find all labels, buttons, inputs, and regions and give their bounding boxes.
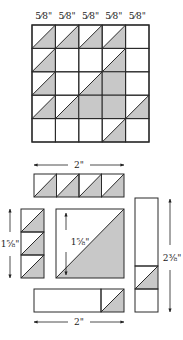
top-strip-piece: 2" xyxy=(34,160,124,197)
column-width-labels: 5⁄8" 5⁄8" 5⁄8" 5⁄8" 5⁄8" xyxy=(35,11,146,21)
bottom-strip-piece: 2" xyxy=(34,289,124,327)
right-strip-height-label: 2⅜" xyxy=(163,253,182,263)
right-strip-piece: 2⅜" xyxy=(135,198,181,312)
column-label: 5⁄8" xyxy=(129,11,146,21)
big-square-piece: 1⅝" xyxy=(56,209,124,278)
big-square-height-label: 1⅝" xyxy=(71,237,90,247)
quilt-diagram: 5⁄8" 5⁄8" 5⁄8" 5⁄8" 5⁄8" 2" 1⅝" 1⅝" 2⅜" xyxy=(0,0,183,340)
left-strip-piece: 1⅝" xyxy=(1,209,44,278)
column-label: 5⁄8" xyxy=(82,11,99,21)
column-label: 5⁄8" xyxy=(59,11,76,21)
top-strip-width-label: 2" xyxy=(74,160,84,170)
left-strip-height-label: 1⅝" xyxy=(1,239,20,249)
column-label: 5⁄8" xyxy=(105,11,122,21)
quilt-block-grid xyxy=(32,25,149,142)
column-label: 5⁄8" xyxy=(35,11,52,21)
bottom-strip-width-label: 2" xyxy=(74,317,84,327)
